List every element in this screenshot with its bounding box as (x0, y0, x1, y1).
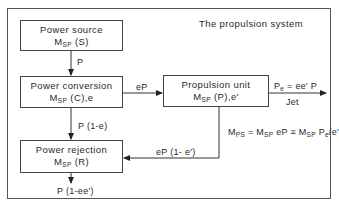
power-source-title: Power source (21, 24, 122, 36)
propulsion-unit-box: Propulsion unit MSP (P),e' (163, 75, 269, 107)
flow-label-rejection-out: P (1-ee') (57, 186, 94, 196)
propulsion-unit-title: Propulsion unit (164, 79, 268, 91)
power-conversion-box: Power conversion MSP (C),e (20, 76, 123, 108)
propulsion-unit-mass: MSP (P),e' (164, 91, 268, 103)
flow-label-conversion-to-propulsion: eP (136, 82, 148, 92)
power-rejection-title: Power rejection (21, 144, 122, 156)
power-source-mass: MSP (S) (21, 36, 122, 48)
flow-label-conversion-to-rejection: P (1-e) (78, 121, 107, 131)
power-rejection-mass: MSP (R) (21, 156, 122, 168)
jet-power-label: Pe = ee' P (274, 81, 317, 91)
power-conversion-mass: MSP (C),e (21, 92, 122, 104)
flow-label-source-to-conversion: P (77, 57, 83, 67)
flow-label-propulsion-to-rejection: eP (1- e') (156, 147, 196, 157)
mass-equation: MPS = MSP eP ≡ MSP Pe/e' (228, 127, 339, 137)
power-rejection-box: Power rejection MSP (R) (20, 140, 123, 173)
power-source-box: Power source MSP (S) (20, 20, 123, 51)
diagram-title: The propulsion system (199, 18, 303, 29)
jet-label: Jet (286, 97, 299, 107)
power-conversion-title: Power conversion (21, 80, 122, 92)
